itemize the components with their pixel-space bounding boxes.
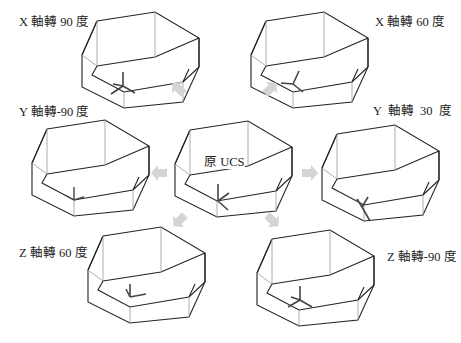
- ucs-icon: [357, 197, 370, 221]
- arrow-to-ym90: [151, 165, 167, 181]
- label-original-ucs: 原 UCS: [203, 155, 245, 169]
- ucs-icon: [288, 286, 312, 307]
- label-y30: Y 軸轉 30 度: [373, 104, 452, 118]
- ucs-icon: [65, 187, 84, 200]
- ucs-icon: [126, 284, 146, 297]
- ucs-rotation-diagram: [0, 0, 461, 343]
- arrow-to-z60: [168, 209, 191, 232]
- ucs-icon: [218, 184, 229, 210]
- ucs-icon: [281, 71, 303, 92]
- arrow-to-zm90: [261, 209, 284, 232]
- label-x90: X 軸轉 90 度: [19, 15, 89, 29]
- label-zm90: Z 軸轉-90 度: [387, 250, 457, 264]
- ucs-icon: [111, 72, 135, 94]
- prism-original: [175, 121, 292, 217]
- label-x60: X 軸轉 60 度: [375, 15, 445, 29]
- label-ym90: Y 軸轉-90 度: [19, 105, 89, 119]
- prism-y30: [322, 125, 439, 221]
- prism-ym90: [32, 120, 149, 216]
- prism-zm90: [257, 230, 374, 326]
- label-z60: Z 軸轉 60 度: [19, 246, 88, 260]
- arrow-to-y30: [302, 165, 318, 181]
- prism-z60: [88, 227, 205, 323]
